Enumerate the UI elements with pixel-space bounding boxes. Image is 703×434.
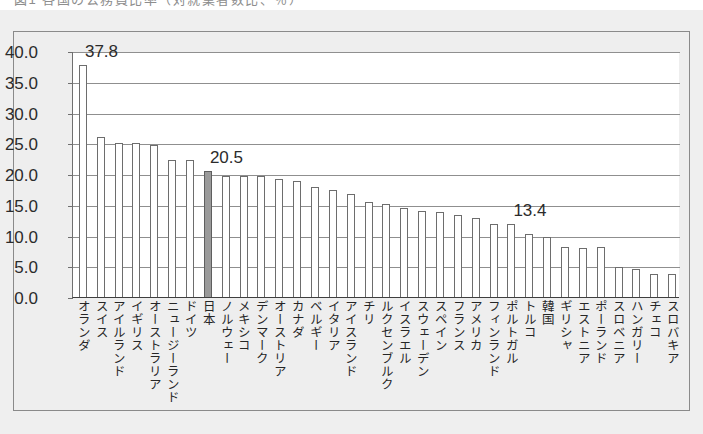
bar [597,247,605,297]
bar [490,224,498,297]
bar-slot [216,51,234,297]
bar [186,160,194,297]
bar [150,145,158,297]
bar [257,176,265,297]
bar-slot [323,51,341,297]
bar-slot [144,51,162,297]
bar [650,274,658,297]
category-label: スロバキア [665,300,678,365]
bar [347,194,355,297]
category-label: スロベニア [611,300,624,365]
category-label: オーストリア [272,300,285,378]
bar-slot [644,51,662,297]
bar-slot [180,51,198,297]
bar-slot [591,51,609,297]
plot-area: 37.820.513.4 [72,52,679,298]
y-axis-tick-label: 15.0 [5,198,38,215]
bar [240,176,248,297]
category-label: ニュージーランド [165,300,178,404]
bar [222,176,230,297]
bar-slot [287,51,305,297]
y-axis-tick-label: 25.0 [5,136,38,153]
bar-slot [609,51,627,297]
y-axis-tick-label: 0.0 [14,290,38,307]
bar-slot [573,51,591,297]
bar-slot [626,51,644,297]
bar [543,237,551,297]
category-label: イタリア [325,300,338,352]
category-label: エストニア [575,300,588,365]
bar-slot [377,51,395,297]
bar-slot [466,51,484,297]
y-axis-tick-label: 20.0 [5,167,38,184]
bar [293,181,301,297]
x-axis-category-labels: オランダスイスアイルランドイギリスオーストラリアニュージーランドドイツ日本ノルウ… [72,300,679,412]
bar [632,269,640,297]
chart-frame: 37.820.513.4 0.05.010.015.020.025.030.03… [13,31,690,411]
category-label: スペイン [432,300,445,352]
bar [668,274,676,297]
bar-slot [269,51,287,297]
bar-slot [394,51,412,297]
bar-slot [501,51,519,297]
bar [454,215,462,297]
y-axis-tick-label: 40.0 [5,44,38,61]
category-label: アイルランド [111,300,124,378]
category-label: トルコ [522,300,535,339]
category-label: フィンランド [486,300,499,378]
category-label: ベルギー [308,300,321,352]
category-label: イギリス [129,300,142,352]
category-label: アイスランド [343,300,356,378]
bar-slot [484,51,502,297]
bar-slot [73,51,91,297]
bar [311,187,319,297]
bar-slot [234,51,252,297]
bar-slot [341,51,359,297]
category-label: メキシコ [236,300,249,352]
bar [79,65,87,297]
category-label: ハンガリー [629,300,642,365]
y-axis-tick-label: 35.0 [5,75,38,92]
bar [275,179,283,297]
cut-off-header-label: 図1 各国の公務員比率（対就業者数比、％） [14,0,303,8]
category-label: 韓国 [540,300,553,326]
category-label: ギリシャ [557,300,570,352]
bar [615,267,623,297]
bar [561,247,569,297]
category-label: ノルウェー [218,300,231,365]
bar-series [73,51,680,297]
category-label: ポーランド [593,300,606,365]
bar [507,224,515,297]
bar [365,202,373,297]
category-label: ルクセンブルク [379,300,392,391]
bar-slot [162,51,180,297]
category-label: チリ [361,300,374,326]
bar [382,204,390,297]
category-label: 日本 [200,300,213,326]
category-label: イスラエル [397,300,410,365]
category-label: オーストラリア [147,300,160,391]
value-label: 37.8 [85,43,118,60]
scanned-page: 37.820.513.4 0.05.010.015.020.025.030.03… [0,10,703,434]
category-label: フランス [450,300,463,352]
bar-highlighted [204,171,212,297]
bar [525,234,533,297]
category-label: ポルトガル [504,300,517,365]
bar-slot [412,51,430,297]
bar-slot [305,51,323,297]
category-label: デンマーク [254,300,267,365]
bar [329,190,337,297]
category-label: スウェーデン [415,300,428,378]
bar [418,211,426,297]
bar [472,218,480,297]
bar [579,248,587,297]
y-axis-tick-label: 5.0 [14,259,38,276]
bar [132,143,140,297]
category-label: ドイツ [183,300,196,339]
bar-slot [555,51,573,297]
bar [400,208,408,297]
category-label: オランダ [75,300,88,352]
bar-slot [519,51,537,297]
bar-slot [448,51,466,297]
bar-slot [252,51,270,297]
